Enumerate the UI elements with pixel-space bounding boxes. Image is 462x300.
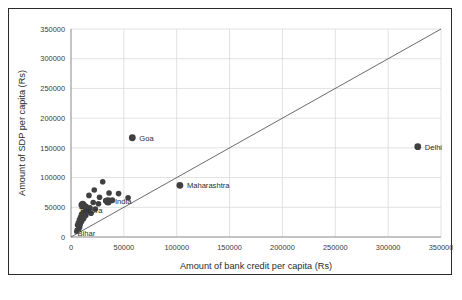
y-tick-label: 200000 — [40, 114, 65, 123]
y-tick-label: 300000 — [40, 54, 65, 63]
x-tick-label: 0 — [69, 243, 73, 252]
data-point — [91, 187, 97, 193]
figure-frame: 0500001000001500002000002500003000003500… — [8, 8, 452, 275]
scatter-chart: 0500001000001500002000002500003000003500… — [9, 9, 453, 276]
x-axis-ticks: 0500001000001500002000002500003000003500… — [69, 243, 453, 252]
data-point-labeled — [414, 143, 421, 150]
x-tick-label: 50000 — [114, 243, 135, 252]
x-tick-label: 350000 — [429, 243, 453, 252]
point-label: Bihar — [77, 229, 95, 238]
data-point — [116, 191, 122, 197]
point-label: Delhi — [425, 143, 443, 152]
y-tick-label: 50000 — [44, 203, 65, 212]
y-tick-label: 350000 — [40, 25, 65, 34]
y-axis-title: Amount of SDP per capita (Rs) — [17, 70, 27, 196]
y-tick-label: 150000 — [40, 144, 65, 153]
data-point — [97, 194, 103, 200]
point-label: India — [115, 197, 132, 206]
y-tick-label: 100000 — [40, 173, 65, 182]
chart-canvas: 0500001000001500002000002500003000003500… — [9, 9, 453, 276]
point-label: Tripura — [79, 206, 104, 215]
data-point-labeled — [176, 182, 183, 189]
x-axis-title: Amount of bank credit per capita (Rs) — [180, 261, 332, 271]
point-label: Goa — [139, 134, 154, 143]
point-label: Maharashtra — [187, 181, 230, 190]
data-point-labeled — [129, 134, 136, 141]
y-tick-label: 0 — [61, 233, 65, 242]
x-tick-label: 200000 — [270, 243, 295, 252]
x-tick-label: 150000 — [217, 243, 242, 252]
data-point — [86, 193, 92, 199]
x-tick-label: 300000 — [376, 243, 401, 252]
y-tick-label: 250000 — [40, 84, 65, 93]
data-point — [103, 198, 109, 204]
x-tick-label: 250000 — [323, 243, 348, 252]
y-axis-ticks: 0500001000001500002000002500003000003500… — [40, 25, 65, 242]
x-tick-label: 100000 — [164, 243, 189, 252]
data-point — [100, 179, 106, 185]
data-point — [90, 200, 96, 206]
data-point — [106, 190, 112, 196]
